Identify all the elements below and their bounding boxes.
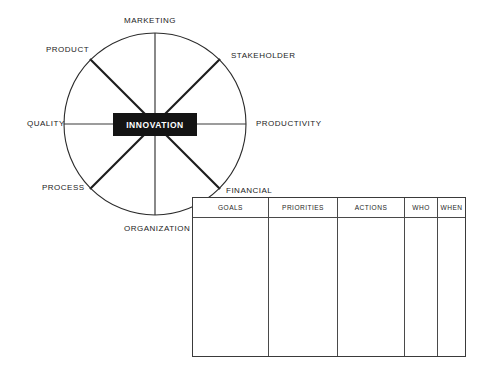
table-cell-priorities[interactable] [269, 218, 338, 356]
spoke-label-quality: QUALITY [27, 119, 65, 128]
spoke-label-organization: ORGANIZATION [124, 224, 190, 233]
column-header-priorities: PRIORITIES [269, 198, 338, 217]
column-header-actions: ACTIONS [338, 198, 405, 217]
action-plan-table: GOALS PRIORITIES ACTIONS WHO WHEN [192, 197, 466, 357]
spoke-label-productivity: PRODUCTIVITY [256, 119, 322, 128]
column-header-when: WHEN [438, 198, 465, 217]
table-cell-actions[interactable] [338, 218, 405, 356]
innovation-center-box: INNOVATION [113, 113, 197, 136]
table-body-empty [193, 218, 465, 356]
spoke-label-process: PROCESS [42, 183, 85, 192]
column-header-goals: GOALS [193, 198, 269, 217]
innovation-center-label: INNOVATION [126, 120, 184, 130]
diagram-canvas: INNOVATION MARKETING STAKEHOLDER PRODUCT… [0, 0, 499, 379]
column-header-who: WHO [405, 198, 438, 217]
spoke-label-financial: FINANCIAL [226, 186, 272, 195]
table-header-row: GOALS PRIORITIES ACTIONS WHO WHEN [193, 198, 465, 218]
spoke-label-stakeholder: STAKEHOLDER [231, 51, 295, 60]
spoke-label-product: PRODUCT [46, 45, 89, 54]
table-cell-goals[interactable] [193, 218, 269, 356]
table-cell-who[interactable] [405, 218, 438, 356]
spoke-label-marketing: MARKETING [124, 16, 176, 25]
table-cell-when[interactable] [438, 218, 465, 356]
